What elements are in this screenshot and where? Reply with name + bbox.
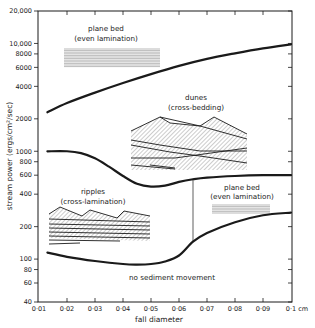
ripples-sublabel: (cross-lamination) bbox=[61, 197, 126, 206]
y-tick-label: 80 bbox=[24, 266, 32, 274]
x-tick-label: 0·1 cm bbox=[286, 305, 308, 313]
y-tick-label: 60 bbox=[24, 279, 32, 287]
x-tick-label: 0·09 bbox=[256, 305, 270, 313]
x-tick-label: 0·07 bbox=[200, 305, 214, 313]
y-tick-label: 6000 bbox=[15, 64, 32, 72]
lower-plane-bed-sublabel: (even lamination) bbox=[210, 192, 274, 201]
x-tick-label: 0·06 bbox=[172, 305, 186, 313]
y-tick-label: 10,000 bbox=[9, 40, 32, 48]
x-axis-title: fall diameter bbox=[135, 315, 184, 324]
x-tick-label: 0·01 bbox=[32, 305, 46, 313]
y-tick-label: 1000 bbox=[15, 148, 32, 156]
upper-plane-bed-label: plane bed bbox=[88, 24, 124, 33]
x-tick-label: 0·02 bbox=[60, 305, 74, 313]
y-tick-label: 4000 bbox=[15, 83, 32, 91]
y-tick-label: 100 bbox=[20, 255, 32, 263]
y-axis-title: stream power (ergs/cm²/sec) bbox=[5, 102, 14, 211]
x-tick-label: 0·05 bbox=[144, 305, 158, 313]
ripples-cross-lamination-symbol bbox=[49, 207, 150, 244]
y-tick-label: 600 bbox=[20, 171, 32, 179]
y-tick-label: 400 bbox=[20, 190, 32, 198]
y-tick-label: 200 bbox=[20, 223, 32, 231]
upper-plane-bed-sublabel: (even lamination) bbox=[74, 34, 138, 43]
no-sediment-movement-label: no sediment movement bbox=[129, 273, 215, 282]
y-tick-label: 800 bbox=[20, 158, 32, 166]
dunes-sublabel: (cross-bedding) bbox=[168, 103, 224, 112]
x-tick-label: 0·08 bbox=[228, 305, 242, 313]
dunes-cross-bedding-symbol bbox=[131, 117, 247, 170]
y-tick-label: 40 bbox=[24, 298, 32, 306]
lower-plane-bed-label: plane bed bbox=[224, 183, 260, 192]
x-tick-label: 0·04 bbox=[116, 305, 130, 313]
y-tick-label: 2000 bbox=[15, 115, 32, 123]
y-tick-label: 20,000 bbox=[9, 7, 32, 15]
lower-plane-bed-lamination-symbol bbox=[212, 205, 270, 213]
y-tick-label: 8000 bbox=[15, 50, 32, 58]
bedform-stability-chart: 20,00010,0008000600040002000100080060040… bbox=[0, 0, 315, 328]
x-tick-label: 0·03 bbox=[88, 305, 102, 313]
upper-plane-bed-lamination-symbol bbox=[64, 49, 160, 67]
ripples-label: ripples bbox=[81, 187, 105, 196]
dunes-label: dunes bbox=[185, 93, 207, 102]
